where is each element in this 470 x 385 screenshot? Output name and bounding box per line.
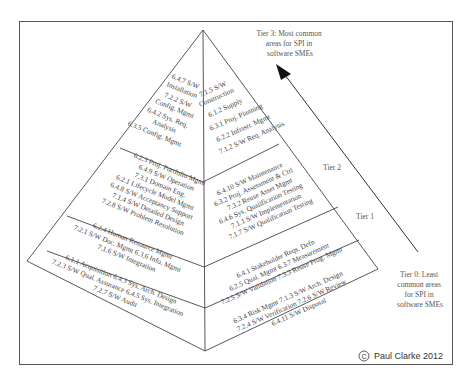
tier0-label: Tier 0: Least common areas for SPI in so…	[397, 270, 443, 309]
pyramid-diagram: Tier 3: Most common areas for SPI in sof…	[0, 0, 470, 385]
tier2-label: Tier 2	[323, 163, 341, 172]
copyright: C Paul Clarke 2012	[359, 351, 443, 361]
copyright-text: Paul Clarke 2012	[374, 351, 443, 361]
tier3-label: Tier 3: Most common areas for SPI in sof…	[256, 29, 323, 58]
svg-text:C: C	[362, 353, 367, 360]
tier1-label: Tier 1	[356, 212, 374, 221]
